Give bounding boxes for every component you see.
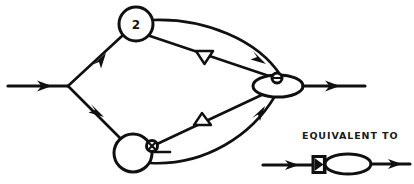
inset-ellipse[interactable] [325,154,371,174]
crossed-circle-junction-lower[interactable] [147,141,158,152]
equivalent-to-label: EQUIVALENT TO [302,130,398,141]
branch-to-bottom-circle [68,86,122,140]
crossed-circle-junction-upper[interactable] [272,73,282,83]
gain-node-top-label: 2 [132,18,140,32]
diagram-canvas: 2 EQUIVALENT TO [0,0,414,184]
top-circle-curved-to-ellipse [152,20,281,76]
inset-gate-box[interactable] [313,157,325,173]
equivalence-inset [263,154,410,174]
flow-graph-diagram: 2 EQUIVALENT TO [0,0,414,184]
output-edge [303,81,365,92]
bottom-junction-straight-to-ellipse [157,92,268,144]
top-circle-straight-to-junction [150,36,272,77]
summing-node-bottom[interactable] [114,134,152,172]
branch-to-top-circle [68,36,122,86]
input-edge [8,81,68,92]
